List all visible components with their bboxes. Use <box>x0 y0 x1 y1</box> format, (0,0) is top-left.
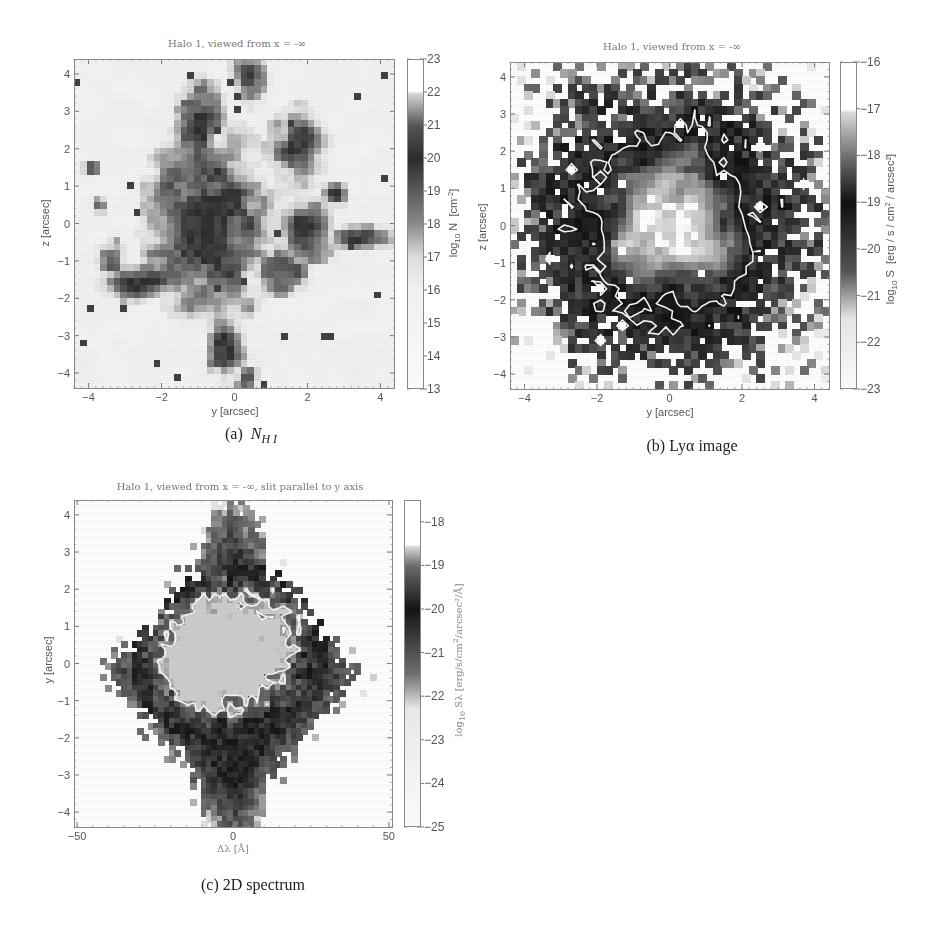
cbar-c-label-pre: log <box>453 721 464 737</box>
y-tick-label: −2 <box>57 732 70 744</box>
y-tick-label: 3 <box>64 546 70 558</box>
colorbar-tick-label: −19 <box>424 558 444 572</box>
colorbar-tick-label: −22 <box>424 689 444 703</box>
colorbar-tick-label: −25 <box>424 820 444 834</box>
panel-c-colorbar-label: log10 Sλ [erg/s/cm2/arcsec²/Å] <box>451 583 467 736</box>
y-tick-label: −1 <box>57 695 70 707</box>
y-tick-label: −3 <box>57 769 70 781</box>
x-tick-label: 0 <box>230 830 236 842</box>
colorbar-tick-label: −20 <box>424 602 444 616</box>
panel-c-caption: (c) 2D spectrum <box>201 876 305 894</box>
panel-c-frame <box>74 500 393 828</box>
colorbar-tick-label: −18 <box>424 515 444 529</box>
x-tick-label: −50 <box>68 830 87 842</box>
colorbar-tick-label: −23 <box>424 733 444 747</box>
panel-c-ylabel: y [arcsec] <box>42 636 54 683</box>
colorbar-tick-label: −21 <box>424 646 444 660</box>
y-tick-label: 0 <box>64 658 70 670</box>
y-tick-label: 2 <box>64 583 70 595</box>
panel-c-colorbar <box>404 500 421 827</box>
y-tick-label: −4 <box>57 806 70 818</box>
x-tick-label: 50 <box>383 830 395 842</box>
cbar-c-label-mid: Sλ [erg/s/cm <box>453 643 464 711</box>
cbar-c-label-sub: 10 <box>458 711 467 721</box>
y-tick-label: 1 <box>64 620 70 632</box>
cbar-c-label-sup: 2 <box>451 638 460 643</box>
colorbar-tick-label: −24 <box>424 776 444 790</box>
cbar-c-label-post: /arcsec²/Å] <box>453 583 464 638</box>
panel-c-xlabel: Δλ [Å] <box>217 843 249 854</box>
y-tick-label: 4 <box>64 509 70 521</box>
